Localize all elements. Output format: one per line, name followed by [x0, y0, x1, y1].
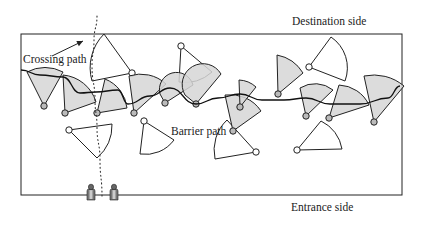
sensor-node-icon — [237, 104, 243, 110]
sensor-node-icon — [94, 110, 100, 116]
open-sensor-sector — [140, 121, 174, 154]
sensor-node-icon — [253, 149, 259, 155]
sensor-node-icon — [275, 91, 281, 97]
shaded-sensor-sector — [329, 85, 369, 118]
sensor-node-icon — [131, 110, 137, 116]
crossing-path-label: Crossing path — [23, 54, 87, 66]
open-sensor-sector — [69, 124, 112, 158]
sensor-node-icon — [230, 128, 236, 134]
destination-side-label: Destination side — [292, 16, 366, 28]
open-sensor-sector — [297, 121, 342, 150]
sensor-node-icon — [326, 115, 332, 121]
diagram-svg — [0, 0, 424, 226]
entrance-side-label: Entrance side — [291, 202, 353, 214]
pedestrians — [87, 184, 118, 200]
sensor-node-icon — [41, 103, 47, 109]
sensor-node-icon — [66, 127, 72, 133]
sensor-node-icon — [162, 100, 168, 106]
sensor-node-icon — [62, 110, 68, 116]
open-sensor-sector — [90, 34, 132, 81]
sensor-node-icon — [178, 43, 184, 49]
sensor-node-icon — [294, 147, 300, 153]
sensor-node-icon — [303, 113, 309, 119]
shaded-sensor-sector — [277, 55, 303, 94]
barrier-path-label: Barrier path — [171, 126, 226, 138]
shaded-sensor-sector — [63, 75, 96, 113]
diagram-canvas: Destination side Entrance side Crossing … — [0, 0, 424, 226]
sensor-node-icon — [371, 119, 377, 125]
person-icon — [87, 184, 95, 200]
sensor-node-icon — [141, 118, 147, 124]
sensor-node-icon — [306, 64, 312, 70]
open-sensor-sector — [309, 37, 347, 81]
person-icon — [110, 184, 118, 200]
